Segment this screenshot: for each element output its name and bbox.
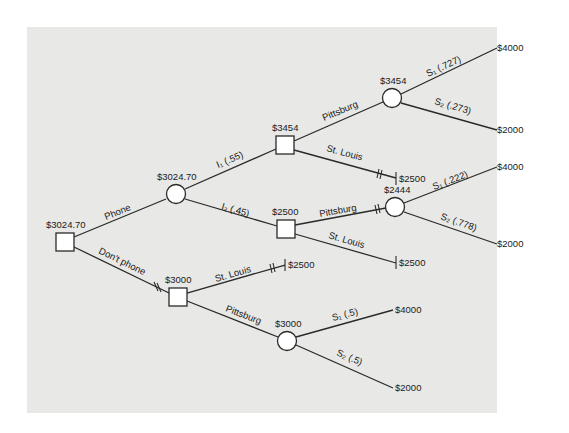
label-dont-phone: Don't phone — [97, 245, 148, 277]
phone-chance-node — [167, 185, 186, 204]
label-dp-pittsburg: Pittsburg — [224, 303, 263, 327]
label-i1-pittsburg: Pittsburg — [320, 98, 359, 123]
i1-value: $3454 — [272, 122, 298, 133]
payoff-i1-s2: $2000 — [497, 124, 523, 135]
dp-pittsburg-value: $3000 — [275, 318, 301, 329]
pruned-mark — [378, 204, 380, 213]
payoff-dp-s1: $4000 — [395, 304, 421, 315]
payoff-i2-stlouis: $2500 — [399, 257, 425, 268]
dont-phone-value: $3000 — [165, 274, 191, 285]
payoff-dp-stlouis: $2500 — [288, 259, 314, 270]
dont-phone-decision-node — [169, 288, 187, 306]
label-i1-s1: S₁ (.727) — [424, 53, 462, 79]
payoff-dp-s2: $2000 — [395, 382, 421, 393]
payoff-i2-s2: $2000 — [497, 238, 523, 249]
root-decision-node — [56, 233, 74, 251]
dp-pittsburg-chance-node — [278, 332, 297, 351]
label-i2: I₂ (.45) — [220, 200, 250, 218]
i1-pittsburg-value: $3454 — [380, 75, 406, 86]
i1-pittsburg-chance-node — [383, 89, 402, 108]
i2-pittsburg-value: $2444 — [384, 184, 410, 195]
root-value: $3024.70 — [46, 219, 86, 230]
edge-i1-s1 — [401, 48, 497, 94]
i2-decision-node — [277, 220, 295, 238]
payoff-i1-stlouis: $2500 — [399, 173, 425, 184]
label-i1-stlouis: St. Louis — [325, 142, 364, 162]
payoff-i1-s1: $4000 — [497, 42, 523, 53]
i2-value: $2500 — [272, 206, 298, 217]
label-dp-stlouis: St. Louis — [214, 263, 253, 284]
payoff-i2-s1: $4000 — [497, 161, 523, 172]
i2-pittsburg-chance-node — [386, 198, 405, 217]
i1-decision-node — [276, 136, 294, 154]
label-i2-s2: S₂ (.778) — [439, 210, 478, 233]
decision-tree: $3024.70 $3024.70 $3454 $2500 $3454 $244… — [0, 0, 569, 433]
label-i1: I₁ (.55) — [214, 149, 244, 170]
label-i2-s1: S₁ (.222) — [431, 168, 469, 192]
phone-chance-value: $3024.70 — [157, 171, 197, 182]
label-i2-stlouis: St. Louis — [327, 229, 366, 250]
